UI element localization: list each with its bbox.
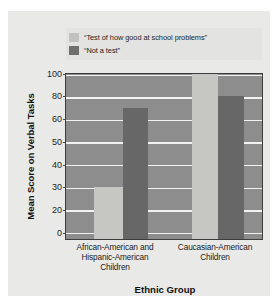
x-category-2: Caucasian-American Children bbox=[165, 242, 265, 273]
bar-group1-series1 bbox=[94, 187, 122, 239]
x-category-2-line-1: Caucasian-American bbox=[165, 242, 265, 252]
chart-legend: “Test of how good at school problems” “N… bbox=[66, 28, 262, 60]
bar-group1-series2 bbox=[123, 108, 148, 239]
x-category-1-line-1: African-American and bbox=[65, 242, 165, 252]
bar-group2-series2 bbox=[218, 96, 244, 239]
y-tick-100: 100 bbox=[47, 69, 62, 79]
legend-swatch-light-icon bbox=[69, 33, 79, 42]
y-tick-20: 20 bbox=[52, 205, 62, 215]
legend-label-series-2: “Not a test” bbox=[84, 46, 120, 55]
y-axis-title: Mean Score on Verbal Tasks bbox=[22, 73, 38, 239]
y-tick-80: 80 bbox=[52, 91, 62, 101]
x-axis-categories: African-American and Hispanic-American C… bbox=[65, 242, 265, 273]
y-tick-0: 0 bbox=[57, 228, 62, 238]
x-axis-title: Ethnic Group bbox=[65, 284, 265, 295]
y-tick-30: 30 bbox=[52, 182, 62, 192]
legend-swatch-dark-icon bbox=[69, 46, 79, 55]
legend-label-series-1: “Test of how good at school problems” bbox=[84, 33, 207, 42]
y-tick-40: 40 bbox=[52, 160, 62, 170]
plot-area bbox=[65, 73, 263, 240]
y-axis-ticks: 0 20 30 40 50 60 80 100 bbox=[40, 73, 64, 239]
legend-item-not-a-test: “Not a test” bbox=[69, 44, 260, 56]
x-category-1-line-2: Hispanic-American bbox=[65, 252, 165, 262]
y-axis-title-text: Mean Score on Verbal Tasks bbox=[25, 93, 36, 219]
chart-figure: “Test of how good at school problems” “N… bbox=[8, 11, 270, 296]
y-tick-50: 50 bbox=[52, 137, 62, 147]
legend-item-test-of-how-good: “Test of how good at school problems” bbox=[69, 31, 260, 43]
x-category-2-line-2: Children bbox=[165, 252, 265, 262]
bar-group2-series1 bbox=[192, 74, 217, 239]
y-tick-60: 60 bbox=[52, 114, 62, 124]
x-category-1-line-3: Children bbox=[65, 262, 165, 272]
gridline-100 bbox=[66, 75, 262, 76]
x-category-1: African-American and Hispanic-American C… bbox=[65, 242, 165, 273]
